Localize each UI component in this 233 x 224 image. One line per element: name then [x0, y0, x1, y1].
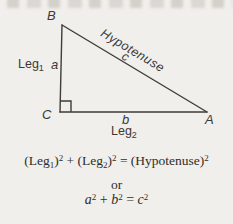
- symbolic-sup-c: 2: [144, 192, 149, 202]
- symbolic-equation: a2 + b2 = c2: [0, 192, 233, 209]
- verbal-eq-part: + (Leg: [63, 153, 103, 168]
- leg1-subscript: 1: [39, 63, 44, 73]
- leg2-label: Leg2: [111, 125, 137, 140]
- symbolic-equals: =: [123, 192, 138, 207]
- pythagorean-theorem-figure: B C A Leg1 a b Leg2 Hypotenuse c (Leg1)2…: [0, 0, 233, 224]
- vertex-label-A: A: [205, 113, 214, 126]
- vertex-label-C: C: [42, 108, 51, 121]
- leg2-word: Leg: [111, 124, 132, 138]
- or-connector: or: [0, 177, 233, 193]
- verbal-eq-sup3: 2: [204, 153, 209, 163]
- verbal-equation: (Leg1)2 + (Leg2)2 = (Hypotenuse)2: [0, 153, 233, 171]
- right-angle-marker: [61, 101, 71, 111]
- symbolic-a: a: [85, 192, 92, 207]
- verbal-eq-part: (Leg: [24, 153, 49, 168]
- symbolic-plus: +: [96, 192, 111, 207]
- leg1-line: [60, 25, 62, 112]
- leg1-word: Leg: [18, 57, 39, 71]
- side-a-label: a: [51, 58, 58, 71]
- vertex-label-B: B: [47, 9, 56, 22]
- leg1-label: Leg1: [18, 58, 44, 73]
- hypotenuse-line: [62, 25, 207, 112]
- leg2-subscript: 2: [132, 130, 137, 140]
- verbal-eq-part: = (Hypotenuse): [117, 153, 205, 168]
